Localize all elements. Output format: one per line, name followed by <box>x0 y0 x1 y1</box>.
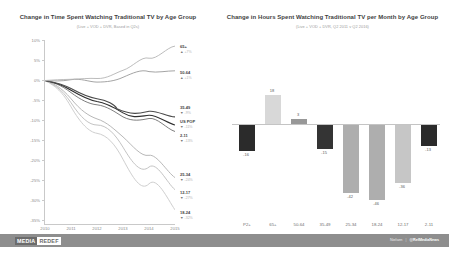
y-tick-label: -35% <box>18 218 40 223</box>
series-delta-18-24: ▼ -32% <box>180 216 193 221</box>
bar-value-2-11: -13 <box>416 147 440 152</box>
x-tick-label: 2015 <box>163 226 187 231</box>
bar-chart-title: Change in Hours Spent Watching Tradition… <box>216 13 449 21</box>
series-label-50-64: 50-64 <box>180 70 190 75</box>
series-delta-65-plus: ▲ +7% <box>180 50 192 55</box>
bar-12-17 <box>395 125 411 183</box>
arrow-down-icon: ▼ <box>180 216 184 220</box>
bar-value-p2-plus: -16 <box>234 152 258 157</box>
line-series-18-24 <box>45 81 175 210</box>
bar-35-49 <box>317 125 333 149</box>
bar-18-24 <box>369 125 385 200</box>
bar-value-18-24: -46 <box>364 201 388 206</box>
series-label-18-24: 18-24 <box>180 210 190 215</box>
bar-category-label: 12-17 <box>390 222 416 227</box>
bar-category-label: 65+ <box>260 222 286 227</box>
y-tick-label: 0% <box>18 78 40 83</box>
series-delta-12-17: ▼ -27% <box>180 196 193 201</box>
series-delta-us-pop: ▼ -11% <box>180 125 192 130</box>
y-tick-label: -20% <box>18 158 40 163</box>
y-tick-label: -30% <box>18 198 40 203</box>
bar-2-11 <box>421 125 437 146</box>
series-label-35-49: 35-49 <box>180 105 190 110</box>
line-series-50-64 <box>45 71 175 82</box>
series-delta-value: -27% <box>185 196 193 200</box>
arrow-down-icon: ▼ <box>180 139 184 143</box>
arrow-down-icon: ▼ <box>180 125 184 129</box>
footer-separator: | <box>405 238 406 242</box>
line-chart-x-axis <box>44 224 175 225</box>
bar-50-64 <box>291 119 307 124</box>
series-label-us-pop: US POP <box>180 119 195 124</box>
series-delta-value: -32% <box>185 216 193 220</box>
arrow-up-icon: ▲ <box>180 76 184 80</box>
series-delta-value: -13% <box>185 139 193 143</box>
series-delta-value: -24% <box>185 178 193 182</box>
line-series-25-34 <box>45 81 175 178</box>
series-delta-value: -9% <box>185 111 191 115</box>
arrow-down-icon: ▼ <box>180 111 184 115</box>
series-delta-value: +7% <box>185 50 192 54</box>
line-series-35-49 <box>45 81 175 117</box>
series-delta-value: -11% <box>185 125 193 129</box>
line-series-65-plus <box>45 46 175 80</box>
y-tick-label: -25% <box>18 178 40 183</box>
arrow-down-icon: ▼ <box>180 178 184 182</box>
line-chart-subtitle: (Live + VOD + DVR, Based in Q2s) <box>0 24 216 30</box>
x-tick-label: 2014 <box>137 226 161 231</box>
line-chart-panel: Change in Time Spent Watching Traditiona… <box>0 0 216 232</box>
bar-65-plus <box>265 95 281 124</box>
series-label-12-17: 12-17 <box>180 190 190 195</box>
footer-bar: MEDIA REDEF Nielsen | @RefMediaNews <box>0 234 449 247</box>
bar-p2-plus <box>239 125 255 151</box>
bar-category-label: 18-24 <box>364 222 390 227</box>
logo-redef-text: REDEF <box>37 237 60 245</box>
bar-25-34 <box>343 125 359 193</box>
x-tick-label: 2012 <box>85 226 109 231</box>
bar-value-25-34: -42 <box>338 194 362 199</box>
footer-handle: @RefMediaNews <box>409 238 439 242</box>
footer-attribution: Nielsen | @RefMediaNews <box>390 238 439 242</box>
bar-value-35-49: -15 <box>312 150 336 155</box>
bar-category-label: 35-49 <box>312 222 338 227</box>
media-redef-logo: MEDIA REDEF <box>15 237 61 245</box>
series-delta-value: +1% <box>185 76 192 80</box>
y-tick-label: 5% <box>18 58 40 63</box>
bar-value-12-17: -36 <box>390 184 414 189</box>
x-tick-label: 2013 <box>111 226 135 231</box>
slide: Change in Time Spent Watching Traditiona… <box>0 0 449 261</box>
y-tick-label: -10% <box>18 118 40 123</box>
line-chart-plot-area <box>45 40 175 222</box>
series-label-2-11: 2-11 <box>180 133 188 138</box>
x-tick-label: 2011 <box>59 226 83 231</box>
bar-category-label: 25-34 <box>338 222 364 227</box>
series-delta-2-11: ▼ -13% <box>180 139 193 144</box>
bar-value-50-64: 3 <box>286 112 310 117</box>
footer-source: Nielsen <box>390 238 402 242</box>
series-label-25-34: 25-34 <box>180 172 190 177</box>
y-tick-label: -15% <box>18 138 40 143</box>
series-delta-25-34: ▼ -24% <box>180 178 193 183</box>
series-delta-50-64: ▲ +1% <box>180 76 192 81</box>
logo-media-text: MEDIA <box>15 237 37 245</box>
line-chart-title: Change in Time Spent Watching Traditiona… <box>0 13 216 21</box>
bar-chart-plot-area: -16 18 3 -15 -42 -46 -36 -13 P2+ <box>226 40 442 220</box>
bar-category-label: P2+ <box>234 222 260 227</box>
series-delta-35-49: ▼ -9% <box>180 111 191 116</box>
y-tick-label: 10% <box>18 38 40 43</box>
arrow-down-icon: ▼ <box>180 196 184 200</box>
x-tick-label: 2010 <box>33 226 57 231</box>
arrow-up-icon: ▲ <box>180 50 184 54</box>
bar-chart-panel: Change in Hours Spent Watching Tradition… <box>216 0 449 232</box>
bar-chart-subtitle: (Live + VOD + DVR, Q2 2011 v Q2 2016) <box>216 24 449 30</box>
y-tick-label: -5% <box>18 98 40 103</box>
series-label-65-plus: 65+ <box>180 44 187 49</box>
bar-value-65-plus: 18 <box>260 88 284 93</box>
bar-category-label: 50-64 <box>286 222 312 227</box>
bar-category-label: 2-11 <box>416 222 442 227</box>
